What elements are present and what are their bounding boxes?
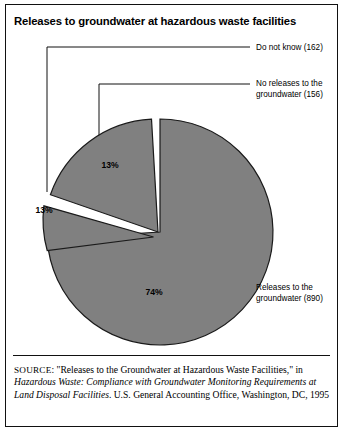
pie-chart: 13% 13% 74% [0,0,344,360]
callout-label-releases: Releases to the groundwater (890) [256,283,336,304]
source-tail-text: . U.S. General Accounting Office, Washin… [109,389,329,400]
source-prefix: SOURCE [14,365,51,375]
source-citation: SOURCE: "Releases to the Groundwater at … [14,364,330,401]
pie-label-no-releases: 13% [101,160,119,170]
pie-label-releases: 74% [145,287,163,297]
callout-label-do-not-know: Do not know (162) [256,43,341,54]
source-divider [13,355,330,356]
source-lead-text: : "Releases to the Groundwater at Hazard… [51,364,302,375]
figure-page: Releases to groundwater at hazardous was… [0,0,344,433]
pie-label-do-not-know: 13% [35,205,53,215]
callout-label-no-releases: No releases to the groundwater (156) [256,79,336,100]
pie-chart-svg: 13% 13% 74% [0,0,344,360]
